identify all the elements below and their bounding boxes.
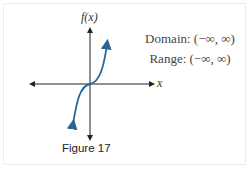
graph: [0, 0, 250, 170]
x-axis-label: x: [157, 76, 162, 91]
range-text: Range: (−∞, ∞): [140, 51, 240, 67]
domain-text: Domain: (−∞, ∞): [140, 31, 240, 47]
figure-caption: Figure 17: [62, 142, 111, 154]
y-axis-label: f(x): [81, 10, 98, 25]
